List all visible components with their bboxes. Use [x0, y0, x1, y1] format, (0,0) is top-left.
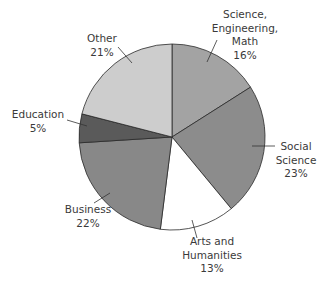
slice-business — [79, 137, 172, 229]
label-science-engineering-math: Science,Engineering,Math16% — [212, 8, 278, 61]
label-social-science: SocialScience23% — [276, 140, 317, 179]
label-arts-and-humanities: Arts andHumanities13% — [182, 235, 242, 274]
label-education: Education5% — [12, 108, 64, 134]
label-other: Other21% — [87, 32, 117, 58]
pie-chart: Science,Engineering,Math16%SocialScience… — [0, 0, 324, 287]
label-business: Business22% — [65, 203, 111, 229]
